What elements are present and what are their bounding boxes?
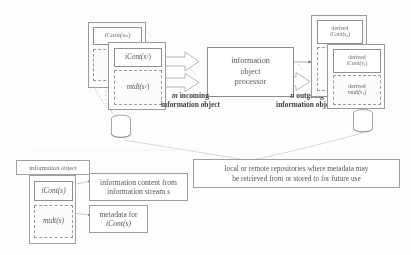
output-front-metadata-label: mtdt(s [348,89,363,95]
information-object-processor: information object processor [207,47,294,97]
legend-content-note-stream-symbol: s [167,187,170,196]
legend-metadata-note-line-2: iCont(s) [99,219,137,228]
input-back-content-close: ) [128,32,130,40]
input-front-metadata-label: mtdt(s [127,84,145,92]
output-object-back-content: derived iCont(sn) [317,20,363,44]
legend-metadata-note: metadata for iCont(s) [89,205,148,233]
left-database-cylinder [112,115,131,137]
figure-canvas: iCont(sm) mtdm iCont(s1) mtdt(s1) inform… [0,0,411,255]
output-object-front: derived iCont(s1) derived mtdt(s1) [327,44,385,109]
input-back-content-label: iCont(s [104,32,125,40]
processor-line-2: object [231,67,270,78]
repository-caption-line-2: be retrieved from or stored to for futur… [224,174,368,183]
legend-content-note-line-1: information content from [100,178,177,187]
legend-title: information object [29,164,76,171]
output-front-metadata-close: ) [364,89,366,95]
legend-content-note: information content from information str… [89,173,188,201]
repository-caption-line-1: local or remote repositories where metad… [224,164,368,173]
incoming-arrow-label: m incoming information object [138,92,243,109]
output-front-content-close: ) [365,60,367,66]
output-back-content-label: iCont(s [330,31,346,37]
output-object-front-content: derived iCont(s1) [333,49,381,73]
processor-line-1: information [231,56,270,67]
right-database-cylinder [354,110,373,132]
incoming-count: m [172,91,178,100]
output-object-front-metadata: derived mtdt(s1) [333,75,381,105]
legend-metadata-label: mtdt(s) [43,217,64,225]
legend-content-note-line-2a: information stream [107,187,167,196]
incoming-label-line1: incoming [180,91,209,100]
legend-object-box: iCont(s) mtdt(s) [29,175,76,244]
legend-metadata-note-line-1: metadata for [99,210,137,219]
outgoing-count: n [290,91,294,100]
input-front-content-label: iCont(s [125,54,146,62]
incoming-label-line2: information object [138,101,243,110]
legend-content-label: iCont(s) [41,187,65,195]
input-front-metadata-close: ) [147,84,149,92]
input-object-front-content: iCont(s1) [114,48,162,67]
legend-title-tag: information object [16,160,90,175]
output-back-content-close: ) [348,31,350,37]
processor-line-3: processor [231,77,270,88]
legend-content-box: iCont(s) [34,181,73,201]
output-front-content-label: iCont(s [347,60,364,66]
caption-leader-right [252,133,362,160]
input-front-content-close: ) [149,54,151,62]
repository-caption: local or remote repositories where metad… [193,159,400,188]
legend-metadata-box: mtdt(s) [34,205,73,238]
